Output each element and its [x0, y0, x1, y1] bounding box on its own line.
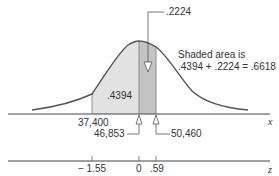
annotation-line-1: Shaded area is [178, 49, 245, 60]
annotation-line-2: .4394 + .2224 = .6618 [178, 61, 276, 72]
up-arrow-icon [153, 115, 159, 124]
normal-curve-diagram: x z .2224 Shaded area is .4394 + .2224 =… [0, 0, 279, 176]
x-tick-label-46853: 46,853 [94, 128, 125, 139]
x-tick-label-37400: 37,400 [78, 117, 109, 128]
right-shaded-area [139, 41, 156, 114]
left-area-label: .4394 [107, 90, 132, 101]
up-arrow-icon [136, 115, 142, 124]
left-shaded-area [92, 41, 139, 114]
x-axis-label: x [267, 116, 273, 127]
x-tick-label-50460: 50,460 [171, 128, 202, 139]
leader-50460 [156, 124, 170, 134]
z-tick-label-neg155: − 1.55 [78, 163, 107, 174]
z-tick-label-0: 0 [136, 163, 142, 174]
callout-value: .2224 [166, 6, 191, 17]
z-tick-label-059: .59 [150, 163, 164, 174]
z-axis-label: z [267, 164, 272, 175]
leader-46853 [127, 124, 139, 134]
